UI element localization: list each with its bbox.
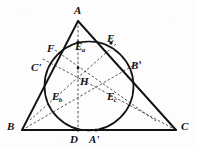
label-vertex-b: B (7, 121, 14, 132)
label-orthocenter-h: H (80, 76, 89, 87)
label-vertex-c: C (181, 121, 188, 132)
triangle-side-ac (78, 21, 176, 130)
nine-point-circle (45, 42, 134, 131)
label-point-aprime: A' (89, 134, 99, 145)
point-d (77, 129, 80, 132)
label-point-e: E (107, 33, 114, 44)
label-point-d: D (70, 134, 78, 145)
point-h-orthocenter (77, 67, 80, 70)
figure-canvas: A B C D E F H A' C' B' Ea Eb Ec (0, 0, 197, 149)
label-point-cprime: C' (31, 62, 41, 73)
label-point-f: F (47, 43, 54, 54)
chord-e-to-eb (30, 44, 116, 120)
label-euler-point-ec: Ec (107, 91, 117, 104)
label-vertex-a: A (74, 5, 81, 16)
point-aprime (95, 129, 98, 132)
label-euler-point-ea: Ea (75, 41, 85, 54)
label-point-bprime: B' (131, 60, 141, 71)
label-euler-point-eb: Eb (52, 91, 62, 104)
nine-point-circle-diagram (0, 0, 197, 149)
